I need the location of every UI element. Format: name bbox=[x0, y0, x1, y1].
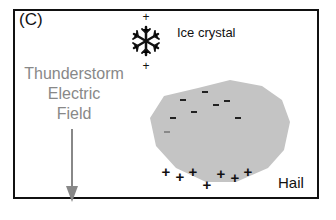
svg-text:+: + bbox=[244, 163, 253, 180]
snowflake-icon bbox=[133, 27, 159, 55]
field-label-line-2: Electric bbox=[14, 84, 134, 104]
electric-field-label: Thunderstorm Electric Field bbox=[14, 64, 134, 124]
svg-text:+: + bbox=[189, 163, 198, 180]
svg-text:+: + bbox=[203, 176, 212, 193]
svg-text:+: + bbox=[217, 165, 226, 182]
field-label-line-3: Field bbox=[14, 104, 134, 124]
field-arrow-icon bbox=[66, 129, 78, 202]
hail-label: Hail bbox=[278, 174, 304, 191]
svg-text:+: + bbox=[162, 163, 171, 180]
svg-text:+: + bbox=[176, 168, 185, 185]
field-label-line-1: Thunderstorm bbox=[14, 64, 134, 84]
svg-text:+: + bbox=[231, 169, 240, 186]
panel-label: (C) bbox=[19, 10, 43, 30]
ice-crystal-label: Ice crystal bbox=[177, 25, 236, 40]
ice-plus-bottom: + bbox=[142, 59, 149, 73]
ice-plus-top: + bbox=[142, 10, 149, 24]
